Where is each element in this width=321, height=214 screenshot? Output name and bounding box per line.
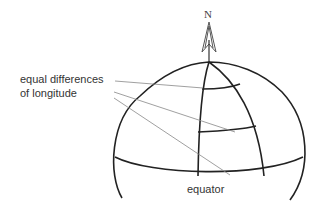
annotation-line-2: of longitude — [20, 87, 77, 100]
leader-lines — [114, 81, 235, 175]
meridian-right — [209, 62, 264, 176]
globe-diagram — [0, 0, 321, 214]
annotation-line-1: equal differences — [20, 73, 104, 86]
globe-outline — [114, 62, 305, 200]
north-label: N — [204, 8, 212, 20]
equator-line — [115, 157, 303, 172]
equator-label: equator — [187, 183, 224, 196]
north-arrow-icon — [202, 22, 216, 63]
meridian-left — [198, 62, 209, 176]
